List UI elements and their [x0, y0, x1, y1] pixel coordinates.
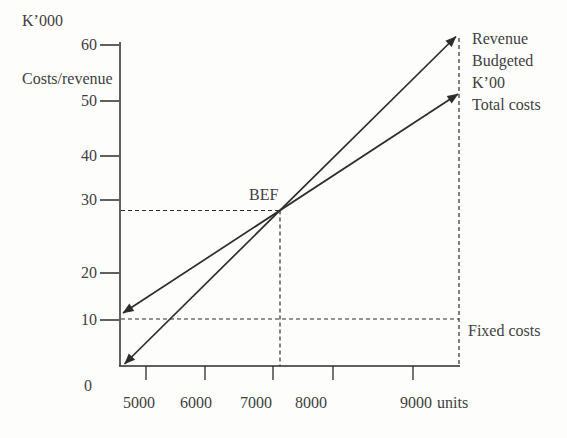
- legend-k00: K’00: [472, 74, 505, 92]
- total-costs-line: [123, 94, 458, 313]
- y-tick-label-60: 60: [55, 36, 97, 54]
- legend-budgeted: Budgeted: [472, 52, 533, 70]
- y-tick-label-20: 20: [55, 264, 97, 282]
- y-axis-label: Costs/revenue: [22, 70, 113, 88]
- x-axis-ticks: [146, 366, 413, 380]
- x-tick-label-8000: 8000: [295, 394, 327, 412]
- fixed-costs-label: Fixed costs: [468, 322, 540, 340]
- x-tick-label-5000: 5000: [123, 394, 155, 412]
- legend-revenue: Revenue: [472, 30, 528, 48]
- origin-label: 0: [84, 377, 92, 395]
- break-even-chart: K’000 Costs/revenue 60 50 40 30 20 10 0 …: [0, 0, 567, 438]
- y-tick-label-30: 30: [55, 191, 97, 209]
- legend-total-costs: Total costs: [472, 96, 541, 114]
- y-axis-unit-label: K’000: [22, 12, 63, 30]
- revenue-line: [125, 37, 457, 365]
- break-even-label: BEF: [249, 186, 278, 204]
- y-tick-label-10: 10: [55, 311, 97, 329]
- x-tick-label-9000: 9000: [400, 394, 432, 412]
- y-tick-label-40: 40: [55, 147, 97, 165]
- x-tick-label-7000: 7000: [240, 394, 272, 412]
- y-tick-label-50: 50: [55, 92, 97, 110]
- x-tick-label-6000: 6000: [180, 394, 212, 412]
- x-axis-unit-label: units: [437, 394, 468, 412]
